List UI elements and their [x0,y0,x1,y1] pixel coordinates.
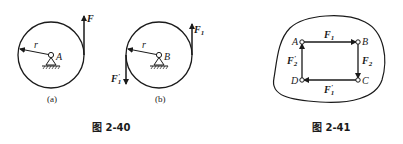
subfigure-tag-a: (a) [47,94,57,104]
force-label-F1-prime: F1′ [110,72,121,86]
point-A [300,40,304,44]
force-label-F1: F1 [193,24,204,37]
force-label-F2-prime: F2′ [286,54,298,68]
point-label-D: D [290,75,299,86]
subfigure-tag-b: (b) [155,94,166,104]
radius-label: r [34,39,38,50]
force-label-F2: F2 [361,55,373,68]
force-label-F1: F1 [323,29,334,42]
figure-2-41: A B C D F1 F2 F1′ F2′ [273,16,384,103]
radius-label: r [142,39,146,50]
figure-caption-2-41: 图 2-41 [312,122,351,133]
figure-2-40a: F r A (a) [18,13,94,104]
figure-2-40b: F1 F1′ r B (b) [110,22,204,104]
point-D [300,78,304,82]
pivot-label-A: A [55,51,63,62]
force-label-F: F [86,13,94,24]
diagram-canvas: F r A (a) F1 F1′ r B (b) 图 [0,0,403,144]
point-label-B: B [362,36,368,47]
point-label-C: C [362,75,369,86]
point-B [356,40,360,44]
pivot-label-B: B [164,51,170,62]
force-label-F1-prime: F1′ [323,83,334,97]
point-label-A: A [291,36,299,47]
figure-caption-2-40: 图 2-40 [92,122,131,133]
point-C [356,78,360,82]
